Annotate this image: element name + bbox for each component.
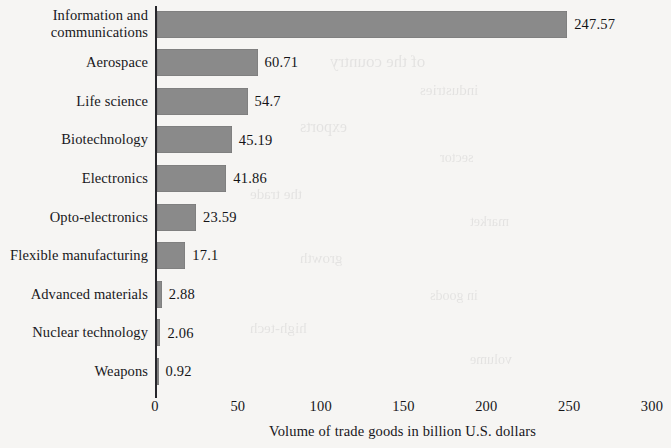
bar-value-label: 0.92	[166, 364, 192, 379]
x-axis-tick-label: 100	[309, 398, 331, 415]
bar-value-label: 2.06	[167, 326, 193, 341]
bar	[157, 204, 196, 231]
x-axis-tick-label: 300	[641, 398, 663, 415]
bar-and-value: 23.59	[157, 198, 237, 236]
table-row: Aerospace60.71	[0, 44, 671, 82]
bar-value-label: 2.88	[169, 287, 195, 302]
bar	[157, 358, 159, 385]
bar-and-value: 2.06	[157, 314, 194, 352]
category-label: Advanced materials	[0, 275, 148, 313]
table-row: Information andcommunications247.57	[0, 5, 671, 43]
category-label: Flexible manufacturing	[0, 237, 148, 275]
category-label-line: Biotechnology	[61, 131, 148, 148]
x-axis-title: Volume of trade goods in billion U.S. do…	[0, 423, 671, 440]
bar-and-value: 247.57	[157, 5, 615, 43]
bar-and-value: 60.71	[157, 44, 298, 82]
bar	[157, 165, 226, 192]
bar-value-label: 54.7	[255, 94, 281, 109]
category-label: Electronics	[0, 159, 148, 197]
category-label-line: Flexible manufacturing	[10, 247, 148, 264]
bar-value-label: 41.86	[233, 171, 267, 186]
category-label-line: Life science	[76, 93, 148, 110]
category-label: Information andcommunications	[0, 5, 148, 43]
x-axis-tick-label: 50	[230, 398, 245, 415]
bar-and-value: 45.19	[157, 121, 272, 159]
x-axis-title-text: Volume of trade goods in billion U.S. do…	[269, 423, 536, 440]
bar-and-value: 54.7	[157, 82, 281, 120]
category-label: Aerospace	[0, 44, 148, 82]
category-label: Nuclear technology	[0, 314, 148, 352]
category-label-line: Electronics	[82, 170, 148, 187]
category-label-line: Nuclear technology	[32, 324, 148, 341]
category-label-line: communications	[51, 24, 148, 41]
table-row: Advanced materials2.88	[0, 275, 671, 313]
table-row: Opto-electronics23.59	[0, 198, 671, 236]
category-label-line: Information and	[53, 7, 148, 24]
category-label: Weapons	[0, 352, 148, 390]
bar-value-label: 17.1	[192, 248, 218, 263]
bar	[157, 49, 258, 76]
table-row: Electronics41.86	[0, 159, 671, 197]
bar-value-label: 45.19	[239, 133, 273, 148]
bar	[157, 319, 160, 346]
bar-value-label: 247.57	[574, 17, 615, 32]
category-label-line: Aerospace	[86, 54, 148, 71]
bar-and-value: 0.92	[157, 352, 192, 390]
bar-value-label: 23.59	[203, 210, 237, 225]
bar-and-value: 41.86	[157, 159, 267, 197]
bar	[157, 126, 232, 153]
bar	[157, 88, 248, 115]
x-axis-tick-label: 200	[475, 398, 497, 415]
bar	[157, 11, 567, 38]
table-row: Nuclear technology2.06	[0, 314, 671, 352]
x-axis-tick-label: 250	[558, 398, 580, 415]
bar	[157, 242, 185, 269]
x-axis-tick-label: 150	[392, 398, 414, 415]
horizontal-bar-chart: Information andcommunications247.57Aeros…	[0, 0, 671, 448]
x-axis-tick-label: 0	[151, 398, 158, 415]
bar-and-value: 17.1	[157, 237, 219, 275]
category-label-line: Opto-electronics	[50, 209, 148, 226]
category-label: Biotechnology	[0, 121, 148, 159]
bar-value-label: 60.71	[265, 55, 299, 70]
table-row: Weapons0.92	[0, 352, 671, 390]
category-label: Opto-electronics	[0, 198, 148, 236]
category-label: Life science	[0, 82, 148, 120]
bar	[157, 281, 162, 308]
category-label-line: Weapons	[95, 363, 149, 380]
category-label-line: Advanced materials	[31, 286, 148, 303]
table-row: Flexible manufacturing17.1	[0, 237, 671, 275]
table-row: Life science54.7	[0, 82, 671, 120]
bar-and-value: 2.88	[157, 275, 195, 313]
table-row: Biotechnology45.19	[0, 121, 671, 159]
